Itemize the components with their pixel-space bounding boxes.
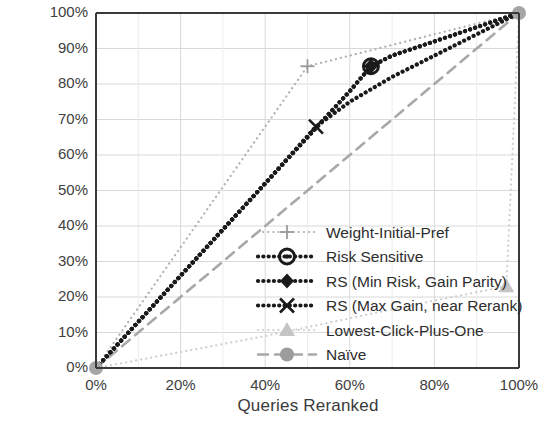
legend-item-label: Naïve bbox=[326, 346, 367, 363]
legend-sample-marker bbox=[280, 274, 294, 289]
legend-item-label: RS (Min Risk, Gain Parity) bbox=[326, 273, 507, 290]
chart-container: Normalized Gain Queries Reranked 0%10%20… bbox=[0, 0, 544, 425]
legend-item-label: Lowest-Click-Plus-One bbox=[326, 322, 484, 339]
legend-item-label: RS (Max Gain, near Rerank) bbox=[326, 297, 522, 314]
chart-legend: Weight-Initial-PrefRisk SensitiveRS (Min… bbox=[258, 224, 522, 364]
legend-item-label: Weight-Initial-Pref bbox=[326, 224, 450, 241]
legend-sample-marker bbox=[280, 225, 294, 239]
legend-sample-marker bbox=[279, 322, 295, 336]
legend-item-label: Risk Sensitive bbox=[326, 248, 423, 265]
legend-sample-marker bbox=[280, 348, 294, 362]
series-marker bbox=[309, 120, 323, 134]
plot-area: Weight-Initial-PrefRisk SensitiveRS (Min… bbox=[0, 0, 544, 425]
series-marker bbox=[301, 59, 315, 73]
